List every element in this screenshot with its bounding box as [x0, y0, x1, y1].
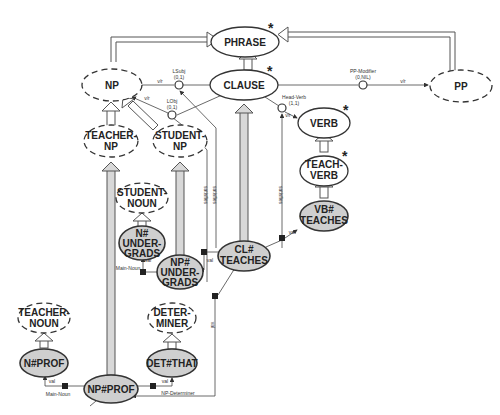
node-teach-verb-label2: VERB [310, 170, 338, 181]
node-n-prof-label: N#PROF [24, 358, 65, 369]
node-teacher-np-label1: TEACHER- [85, 130, 137, 141]
node-np-undergrads-label3: GRADS [162, 277, 198, 288]
np-prof-tail [90, 401, 96, 406]
node-determiner-label2: MINER [156, 318, 189, 329]
main-noun-label-2: Main-Noun [46, 391, 71, 397]
satisfies-label-3: satisfies [278, 186, 284, 205]
satisfies-label-2: satisfies [212, 186, 218, 205]
node-np-prof-label: NP#PROF [87, 384, 134, 395]
node-vb-teaches-label2: TEACHES [300, 215, 348, 226]
semantic-network-diagram: PHRASE * NP CLAUSE * PP TEACHER- NP STUD… [0, 0, 500, 415]
node-teacher-noun-label1: TEACHER- [18, 307, 70, 318]
np-to-phrase-link [111, 32, 218, 62]
det-that-to-determiner-link [163, 334, 181, 349]
n-prof-to-teacher-noun-link [35, 333, 53, 348]
val-box-determiner [150, 383, 156, 389]
val-label-main-noun-1: val [145, 257, 151, 263]
np-determiner-label: NP-Determiner [161, 390, 195, 396]
node-n-undergrads-label3: GRADS [124, 248, 160, 259]
node-teacher-noun-label2: NOUN [29, 318, 58, 329]
node-vb-teaches-label1: VB# [314, 204, 334, 215]
star-clause: * [267, 63, 273, 79]
star-phrase: * [268, 20, 274, 36]
vr-label-ppmod: v/r [400, 78, 406, 84]
node-cl-teaches-label1: CL# [235, 244, 254, 255]
node-cl-teaches-label2: TEACHES [220, 255, 268, 266]
val-label-headverb: val [289, 229, 295, 235]
pp-modifier-role-node [359, 81, 367, 89]
satisfies-label-1: satisfies [203, 186, 209, 205]
clause-lobj-link [177, 95, 222, 115]
node-determiner-label1: DETER- [153, 307, 190, 318]
vr-label-lsubj: v/r [157, 78, 163, 84]
node-student-noun-label2: NOUN [127, 198, 156, 209]
teacher-np-to-np-link [102, 102, 120, 128]
head-verb-role-node [278, 104, 286, 112]
node-student-noun-label1: STUDENT- [117, 187, 167, 198]
val-label-main-noun-2: val [49, 378, 55, 384]
val-box-lobj [201, 249, 207, 255]
cl-teaches-to-clause-link [235, 104, 253, 248]
star-teach-verb: * [342, 148, 348, 164]
clause-headverb-link [265, 97, 279, 106]
student-np-to-np-link [122, 97, 158, 130]
node-phrase-label: PHRASE [224, 37, 266, 48]
head-verb-card: (1,1) [289, 100, 300, 106]
val-label-lobj: val [207, 257, 213, 263]
main-noun-label-1: Main-Noun [116, 265, 141, 271]
node-np-label: NP [105, 80, 119, 91]
star-verb: * [343, 102, 349, 118]
pp-modifier-card: (0,NIL) [355, 74, 371, 80]
node-student-np-label2: NP [173, 141, 187, 152]
node-pp-label: PP [454, 81, 468, 92]
node-det-that-label: DET#THAT [146, 358, 197, 369]
lobj-card: (0,1) [167, 104, 178, 110]
cl-lsubj-val-link [218, 268, 235, 295]
pp-to-phrase-link [278, 27, 455, 72]
node-teacher-np-label2: NP [104, 141, 118, 152]
np-undergrads-to-student-np-link [171, 162, 189, 260]
vr-label-headverb: v/r [285, 112, 291, 118]
lsubj-card: (0,1) [174, 74, 185, 80]
val-box-main-noun-1 [140, 269, 146, 275]
node-teach-verb-label1: TEACH- [305, 159, 343, 170]
lsubj-role-node [175, 81, 183, 89]
val-box-headverb [279, 235, 285, 241]
node-clause-label: CLAUSE [223, 80, 264, 91]
node-verb-label: VERB [310, 118, 338, 129]
val-label-lsubj: val [210, 322, 216, 328]
cl-val-box-link [266, 240, 282, 247]
node-student-np-label1: STUDENT- [155, 130, 205, 141]
vr-label-lobj: v/r [144, 95, 150, 101]
val-box-lsubj [212, 293, 218, 299]
val-label-determiner: val [162, 378, 168, 384]
lobj-role-node [168, 111, 176, 119]
val-box-main-noun-2 [62, 383, 68, 389]
